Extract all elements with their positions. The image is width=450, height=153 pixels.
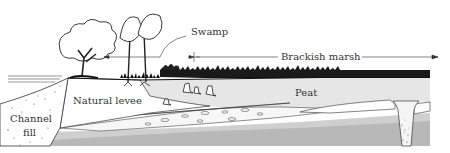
label-peat: Peat [294, 88, 318, 98]
swamp-range [104, 36, 200, 62]
water-surface [8, 76, 62, 82]
oak-tree [59, 19, 116, 78]
marsh-grass-band [160, 70, 430, 77]
cross-section-graphic [0, 0, 450, 153]
swamp-shrub [162, 64, 179, 70]
label-natural-levee: Natural levee [72, 96, 143, 106]
cross-section-diagram: Swamp Brackish marsh Peat Natural levee … [0, 0, 450, 153]
swamp-trees [120, 14, 162, 86]
label-channel-fill-line1: Channel [9, 114, 53, 124]
label-channel-fill-line2: fill [22, 128, 37, 138]
label-brackish-marsh: Brackish marsh [280, 52, 362, 62]
label-swamp: Swamp [190, 27, 229, 37]
